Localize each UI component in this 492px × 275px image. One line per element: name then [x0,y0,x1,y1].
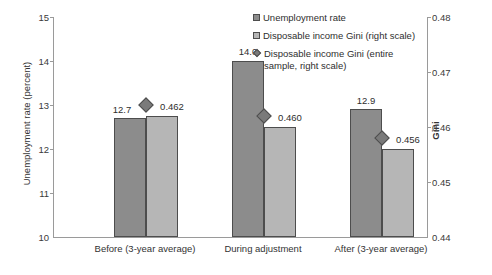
x-category-label-during: During adjustment [224,243,301,254]
y-tick-right-047: 0.47 [432,67,451,78]
marker-value-gini-after: 0.456 [396,134,420,145]
legend-item-unemployment[interactable]: Unemployment rate [253,12,429,24]
bar-gini-before[interactable] [146,116,178,237]
bar-unemployment-during[interactable] [232,61,264,237]
marker-value-gini-during: 0.460 [278,112,302,123]
y-tick-left-11: 11 [39,188,49,199]
bar-gini-during[interactable] [264,127,296,237]
bar-unemployment-after[interactable] [350,109,382,237]
y-tickmark-right-046 [427,127,431,128]
y-tick-right-048: 0.48 [432,12,451,23]
legend-item-gini-entire-sample[interactable]: Disposable income Gini (entire sample, r… [253,48,429,72]
y-axis-left-title: Unemployment rate (percent) [21,44,32,204]
y-tickmark-left-15 [50,17,54,18]
y-tick-left-10: 10 [38,232,49,243]
y-tickmark-left-14 [50,61,54,62]
y-tickmark-left-13 [50,105,54,106]
bar-value-unemployment-after: 12.9 [357,95,376,106]
y-tick-left-15: 15 [38,12,49,23]
legend-label-unemployment: Unemployment rate [263,12,346,24]
y-tick-right-044: 0.44 [432,232,451,243]
y-tickmark-right-045 [427,182,431,183]
marker-gini-entire-sample-before[interactable] [138,97,154,113]
y-tick-left-13: 13 [38,100,49,111]
bar-unemployment-before[interactable] [114,118,146,237]
legend-item-gini[interactable]: Disposable income Gini (right scale) [253,30,429,42]
legend-label-gini: Disposable income Gini (right scale) [263,30,415,42]
legend-square-light-icon [253,32,260,39]
legend-label-gini-entire-sample: Disposable income Gini (entire sample, r… [264,48,429,72]
y-tick-left-12: 12 [38,144,49,155]
y-tickmark-left-12 [50,149,54,150]
chart-container: Unemployment rate (percent) Gini 15 14 1… [0,0,492,275]
x-category-label-before: Before (3-year average) [95,243,196,254]
bar-value-unemployment-before: 12.7 [113,104,132,115]
legend-square-dark-icon [253,14,260,21]
y-tick-left-14: 14 [38,56,49,67]
y-tick-right-045: 0.45 [432,177,451,188]
y-tickmark-left-11 [50,193,54,194]
bar-gini-after[interactable] [382,149,414,237]
chart-legend: Unemployment rate Disposable income Gini… [253,12,429,78]
y-tick-right-046: 0.46 [432,122,451,133]
marker-value-gini-before: 0.462 [160,101,184,112]
legend-diamond-icon [253,49,262,58]
x-category-label-after: After (3-year average) [335,243,428,254]
